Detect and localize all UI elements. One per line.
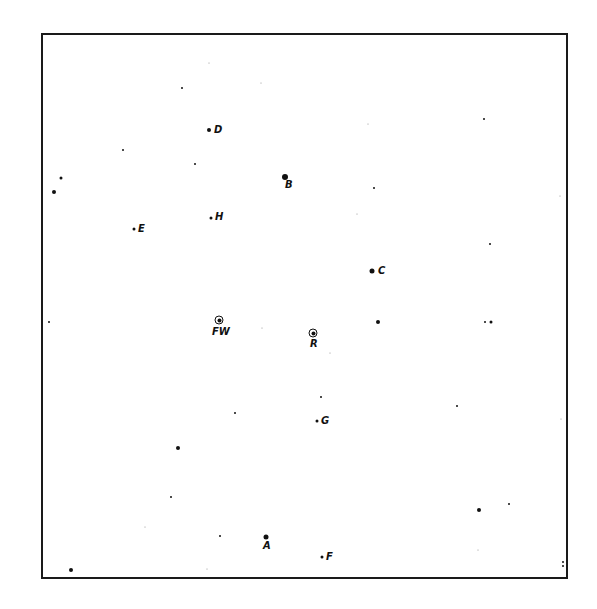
star-fw-variable-marker [215,316,224,325]
star-dot [368,124,369,125]
star-dot [562,561,564,563]
star-label-b: B [285,180,293,190]
star-dot [262,328,263,329]
star-h-marker [210,217,213,220]
star-dot [478,550,479,551]
star-dot [60,177,63,180]
star-e-marker [133,228,136,231]
star-c-marker [370,269,375,274]
star-r-variable-marker [309,329,318,338]
star-dot [562,565,564,567]
star-dot [52,190,56,194]
star-dot [181,87,183,89]
star-d-marker [207,128,211,132]
star-dot [376,320,380,324]
star-dot [330,353,331,354]
star-dot [122,149,124,151]
star-label-a: A [263,541,271,551]
star-dot [170,496,172,498]
star-dot [490,321,493,324]
star-dot [561,419,562,420]
chart-frame [41,33,568,579]
star-label-e: E [138,224,145,234]
star-label-fw: FW [212,327,230,337]
star-dot [489,243,491,245]
star-dot [456,405,458,407]
star-dot [484,321,486,323]
star-dot [508,503,510,505]
star-label-d: D [214,125,222,135]
star-g-marker [316,420,319,423]
star-label-f: F [326,552,333,562]
star-dot [234,412,236,414]
star-finder-chart: DBHECFWRGAF [0,0,597,609]
star-dot [373,187,375,189]
star-dot [477,508,481,512]
star-dot [560,196,561,197]
star-dot [357,214,358,215]
star-dot [194,163,196,165]
star-dot [145,527,146,528]
star-dot [207,569,208,570]
star-label-h: H [215,212,223,222]
star-dot [261,83,262,84]
star-label-r: R [310,339,318,349]
star-dot [209,63,210,64]
star-f-marker [321,556,324,559]
star-a-marker [264,535,269,540]
star-dot [219,535,221,537]
star-label-g: G [321,416,329,426]
star-dot [483,118,485,120]
star-dot [48,321,50,323]
star-dot [176,446,180,450]
star-dot [320,396,322,398]
star-label-c: C [378,266,385,276]
star-dot [69,568,73,572]
